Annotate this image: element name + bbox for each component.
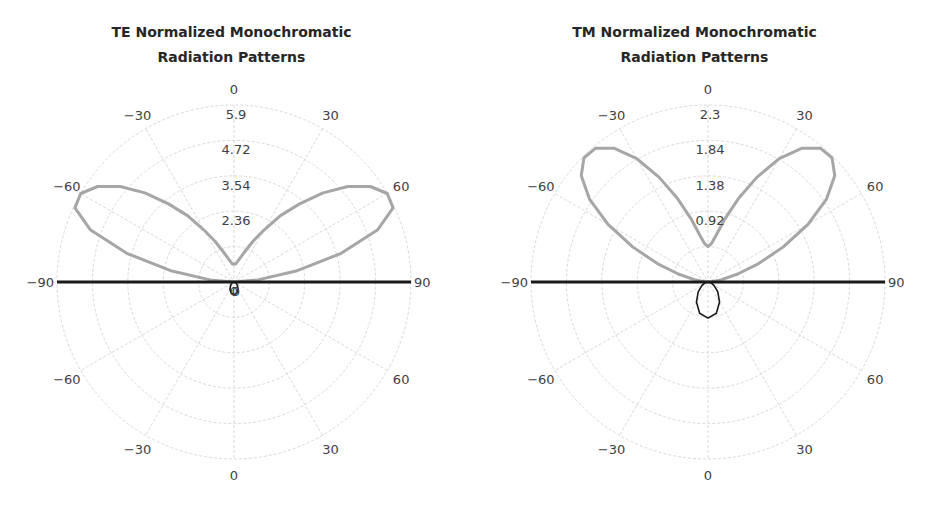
tm-polar-chart: TM Normalized Monochromatic Radiation Pa… — [463, 0, 926, 517]
te-angle-tick-label: −90 — [27, 275, 54, 290]
tm-radial-tick-label: 1.84 — [696, 142, 725, 157]
te-radial-tick-label: 2.36 — [222, 213, 251, 228]
tm-radial-tick-label: 2.3 — [700, 107, 721, 122]
tm-angle-tick-label: 30 — [796, 108, 813, 123]
tm-angle-tick-label: 0 — [704, 468, 712, 483]
te-angle-tick-label: 30 — [322, 442, 339, 457]
tm-radial-tick-label: 1.38 — [696, 178, 725, 193]
tm-polar-plot-area: 0.921.381.842.30−3030−6060−9090−6060−303… — [463, 0, 926, 517]
te-angle-tick-label: 0 — [230, 468, 238, 483]
tm-angle-tick-label: 60 — [867, 179, 884, 194]
tm-radial-tick-label: 0.92 — [696, 213, 725, 228]
tm-angle-tick-label: 0 — [704, 82, 712, 97]
te-polar-plot-area: 02.363.544.725.900−3030−6060−9090−6060−3… — [0, 0, 463, 517]
tm-angle-tick-label: −60 — [527, 372, 554, 387]
te-angle-tick-label: −30 — [124, 442, 151, 457]
tm-angle-tick-label: −30 — [598, 108, 625, 123]
te-angle-tick-label: −30 — [124, 108, 151, 123]
te-radial-tick-label: 4.72 — [222, 142, 251, 157]
tm-angle-tick-label: 60 — [867, 372, 884, 387]
tm-angle-tick-label: 90 — [888, 275, 905, 290]
te-angle-tick-label: 0 — [230, 82, 238, 97]
te-angle-tick-label: 30 — [322, 108, 339, 123]
te-angle-tick-label: −60 — [53, 179, 80, 194]
te-angle-tick-label: 60 — [393, 372, 410, 387]
tm-angle-tick-label: −90 — [501, 275, 528, 290]
te-angle-tick-label: 90 — [414, 275, 431, 290]
te-radial-zero-label: 0 — [230, 284, 238, 299]
te-angle-tick-label: 60 — [393, 179, 410, 194]
te-radial-tick-label: 3.54 — [222, 178, 251, 193]
tm-angle-tick-label: 30 — [796, 442, 813, 457]
te-angle-tick-label: −60 — [53, 372, 80, 387]
tm-angle-tick-label: −60 — [527, 179, 554, 194]
te-radial-tick-label: 5.9 — [226, 107, 247, 122]
tm-angle-tick-label: −30 — [598, 442, 625, 457]
te-polar-chart: TE Normalized Monochromatic Radiation Pa… — [0, 0, 463, 517]
